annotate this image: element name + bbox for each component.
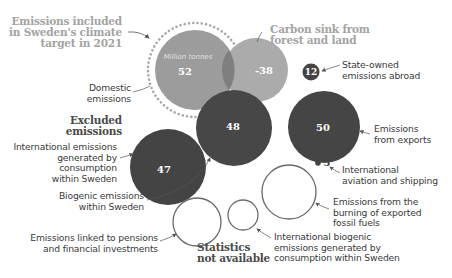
- domestic-label: Domestic emissions: [0, 83, 131, 104]
- emissions-bubble-diagram: Emissions included in Sweden's climate t…: [0, 0, 452, 278]
- pensions-label: Emissions linked to pensions and financi…: [0, 233, 158, 254]
- exports-leader: [360, 131, 370, 134]
- exports-value: 50: [316, 122, 330, 133]
- pensions-leader: [160, 234, 176, 241]
- intl-consumption-label: International emissions generated by con…: [0, 142, 117, 184]
- state-owned-label: State-owned emissions abroad: [342, 60, 420, 81]
- aviation-leader: [330, 167, 340, 173]
- state-owned-leader: [322, 65, 340, 71]
- biogenic-label: Biogenic emissions within Sweden: [0, 191, 144, 212]
- fossil-export-outline: [262, 165, 316, 219]
- included-header: Emissions included in Sweden's climate t…: [0, 16, 122, 49]
- aviation-label: International aviation and shipping: [342, 165, 438, 186]
- aviation-value: 5: [324, 157, 331, 168]
- intl-biogenic-label: International biogenic emissions generat…: [274, 232, 400, 264]
- fossil-export-label: Emissions from the burning of exported f…: [333, 197, 421, 229]
- sink-value: -38: [255, 65, 273, 76]
- exports-label: Emissions from exports: [374, 124, 431, 145]
- domestic-leader: [133, 86, 150, 92]
- intl-consumption-value: 47: [157, 164, 171, 175]
- fossil-export-leader: [316, 203, 329, 209]
- state-owned-value: 12: [305, 67, 318, 77]
- sink-header: Carbon sink from forest and land: [270, 24, 370, 46]
- intl-biogenic-leader: [257, 229, 271, 238]
- excluded-header: Excluded emissions: [0, 115, 122, 137]
- unit-label: Million tonnes: [164, 53, 213, 61]
- aviation-dot: [315, 160, 321, 166]
- intl-biogenic-outline: [228, 200, 258, 230]
- included-arrow: [128, 32, 149, 38]
- intl-consumption-leader: [120, 154, 133, 158]
- pensions-outline: [173, 198, 221, 246]
- biogenic-value: 48: [226, 121, 240, 132]
- domestic-value: 52: [178, 66, 192, 77]
